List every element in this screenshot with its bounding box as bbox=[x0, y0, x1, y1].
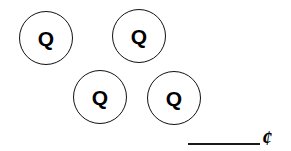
coin-label: Q bbox=[131, 26, 147, 47]
coin-label: Q bbox=[38, 28, 54, 49]
coin-counting-worksheet: Q Q Q Q ¢ bbox=[0, 0, 291, 151]
coin-quarter-2[interactable]: Q bbox=[112, 9, 166, 63]
coin-quarter-1[interactable]: Q bbox=[19, 11, 73, 65]
answer-blank-line[interactable] bbox=[188, 143, 260, 145]
coin-label: Q bbox=[92, 87, 108, 108]
coin-quarter-4[interactable]: Q bbox=[147, 71, 201, 125]
cent-sign-icon: ¢ bbox=[262, 128, 272, 148]
coin-quarter-3[interactable]: Q bbox=[73, 70, 127, 124]
coin-label: Q bbox=[166, 88, 182, 109]
answer-area: ¢ bbox=[188, 124, 284, 148]
